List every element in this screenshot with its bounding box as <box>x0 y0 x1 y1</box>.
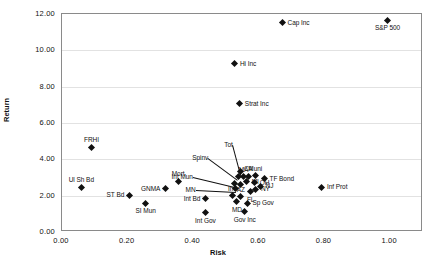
point-label: Int Mun <box>172 173 193 181</box>
x-axis-tick: 0.20 <box>119 236 134 245</box>
gridline <box>62 50 421 51</box>
y-axis-tick: 10.00 <box>0 45 55 54</box>
point-label: Cap Inc <box>288 19 310 27</box>
point-label: MN <box>186 186 196 194</box>
point-label: NY <box>261 185 270 193</box>
point-label: FRHI <box>84 136 99 144</box>
x-axis-tick: 0.00 <box>53 236 68 245</box>
gridline <box>62 159 421 160</box>
point-label: Inv <box>228 185 237 193</box>
y-axis-tick: 12.00 <box>0 9 55 18</box>
point-label: Int Gov <box>195 217 216 225</box>
point-label: Inf Prot <box>327 183 348 191</box>
scatter-chart: Return Risk 0.002.004.006.008.0010.0012.… <box>0 0 436 267</box>
point-label: Strat Inc <box>245 100 269 108</box>
x-axis-tick: 0.40 <box>185 236 200 245</box>
point-label: GNMA <box>141 185 160 193</box>
y-axis-tick: 4.00 <box>0 154 55 163</box>
point-label: Spinv <box>192 154 208 162</box>
point-label: S&P 500 <box>375 24 400 32</box>
y-axis-tick: 0.00 <box>0 227 55 236</box>
gridline <box>62 87 421 88</box>
y-axis-tick: 8.00 <box>0 81 55 90</box>
x-axis-label: Risk <box>0 248 436 257</box>
point-label: Int Bd <box>184 195 201 203</box>
point-label: TF Bond <box>269 175 294 183</box>
x-axis-tick: 0.80 <box>316 236 331 245</box>
x-axis-tick: 0.60 <box>250 236 265 245</box>
point-label: Muni <box>248 165 262 173</box>
point-label: AZ <box>237 186 245 194</box>
y-axis-tick: 6.00 <box>0 118 55 127</box>
point-label: Sp Gov <box>252 199 273 207</box>
gridline <box>62 123 421 124</box>
x-axis-tick: 1.00 <box>381 236 396 245</box>
point-label: ST Bd <box>107 191 125 199</box>
point-label: Hi Inc <box>240 60 256 68</box>
point-label: SI Mun <box>136 207 156 215</box>
y-axis-tick: 2.00 <box>0 190 55 199</box>
point-label: Ul Sh Bd <box>69 176 94 184</box>
point-label: MD <box>232 206 242 214</box>
point-label: Gov Inc <box>234 216 256 224</box>
